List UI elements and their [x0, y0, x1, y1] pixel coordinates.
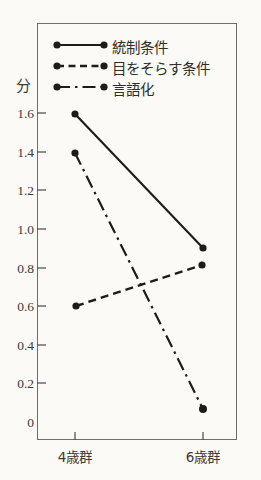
legend-swatch-avert-gaze [53, 62, 107, 69]
data-point [72, 302, 79, 309]
series-line-avert-gaze [72, 261, 205, 309]
data-point [71, 149, 78, 156]
chart-figure: 分 1.6 1.4 1.2 1.0 0.8 0.6 0.4 0.2 0 4歳群 … [0, 0, 261, 480]
y-axis-ticks [37, 113, 46, 383]
series-line-control [71, 110, 206, 251]
legend-swatch-verbalization [53, 83, 107, 90]
data-point [71, 110, 78, 117]
data-point [199, 244, 206, 251]
data-point [198, 261, 205, 268]
legend-swatch-control [53, 41, 107, 48]
data-point [199, 405, 207, 413]
series-line-verbalization [71, 149, 207, 413]
chart-ink-layer [0, 0, 261, 480]
x-axis-ticks [75, 432, 203, 440]
